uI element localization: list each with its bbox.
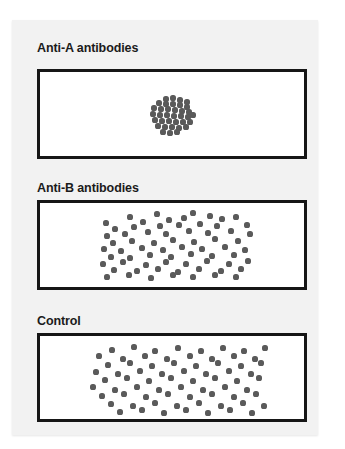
blood-cell-dot [193, 363, 198, 368]
panel-label-control: Control [37, 314, 81, 328]
blood-cell-dot [151, 105, 156, 110]
blood-cell-dot [93, 369, 98, 374]
blood-cell-dot [139, 245, 144, 250]
blood-cell-dot [109, 347, 114, 352]
blood-cell-dot [235, 238, 240, 243]
blood-cell-dot [171, 113, 176, 118]
blood-cell-dot [219, 216, 224, 221]
blood-cell-dot [160, 247, 165, 252]
blood-cell-dot [99, 393, 104, 398]
blood-cell-dot [163, 231, 168, 236]
blood-cell-dot [145, 229, 150, 234]
blood-cell-dot [143, 262, 148, 267]
blood-cell-dot [121, 391, 126, 396]
blood-cell-dot [164, 112, 169, 117]
blood-cell-dot [96, 353, 101, 358]
blood-cell-dot [120, 356, 125, 361]
blood-cell-dot [178, 384, 183, 389]
blood-cell-dot [164, 356, 169, 361]
blood-cell-dot [218, 268, 223, 273]
blood-cell-dot [161, 410, 166, 415]
blood-typing-figure: Anti-A antibodies Anti-B antibodies Cont… [0, 0, 345, 449]
blood-cell-dot [181, 215, 186, 220]
blood-cell-dot [104, 233, 109, 238]
blood-cell-dot [188, 251, 193, 256]
blood-cell-dot [234, 378, 239, 383]
blood-cell-dot [105, 362, 110, 367]
blood-cell-dot [203, 371, 208, 376]
blood-cell-dot [256, 375, 261, 380]
blood-cell-dot [177, 102, 182, 107]
blood-cell-dot [245, 258, 250, 263]
blood-cell-dot [124, 375, 129, 380]
blood-cell-dot [140, 219, 145, 224]
blood-cell-dot [117, 409, 122, 414]
blood-cell-dot [174, 129, 179, 134]
blood-cell-dot [112, 387, 117, 392]
blood-cell-dot [244, 222, 249, 227]
blood-cell-dot [183, 261, 188, 266]
panel-label-anti-b: Anti-B antibodies [37, 181, 139, 195]
blood-cell-dot [147, 252, 152, 257]
blood-cell-dot [108, 254, 113, 259]
blood-cell-dot [160, 129, 165, 134]
blood-cell-dot [131, 344, 136, 349]
blood-cell-dot [220, 345, 225, 350]
blood-cell-dot [108, 401, 113, 406]
blood-cell-dot [238, 266, 243, 271]
blood-cell-dot [179, 244, 184, 249]
blood-cell-dot [90, 384, 95, 389]
blood-cell-dot [190, 112, 195, 117]
blood-cell-dot [233, 274, 238, 279]
blood-cell-dot [150, 111, 155, 116]
blood-cell-dot [248, 371, 253, 376]
blood-cell-dot [159, 371, 164, 376]
blood-cell-dot [101, 246, 106, 251]
blood-cell-dot [212, 375, 217, 380]
blood-cell-dot [209, 356, 214, 361]
blood-cell-dot [151, 240, 156, 245]
blood-cell-dot [238, 363, 243, 368]
blood-cell-dot [205, 230, 210, 235]
blood-cell-dot [181, 368, 186, 373]
blood-cell-dot [155, 266, 160, 271]
blood-cell-dot [226, 261, 231, 266]
blood-cell-dot [174, 403, 179, 408]
blood-cell-dot [190, 210, 195, 215]
blood-cell-dot [127, 360, 132, 365]
blood-cell-dot [240, 400, 245, 405]
panel-label-anti-a: Anti-A antibodies [37, 41, 138, 55]
sample-well-control [37, 333, 307, 422]
blood-cell-dot [252, 356, 257, 361]
blood-cell-dot [242, 247, 247, 252]
blood-cell-dot [152, 117, 157, 122]
blood-cell-dot [215, 360, 220, 365]
blood-cell-dot [183, 407, 188, 412]
blood-cell-dot [197, 221, 202, 226]
blood-cell-dot [186, 228, 191, 233]
blood-cell-dot [227, 407, 232, 412]
blood-cell-dot [134, 268, 139, 273]
blood-cell-dot [148, 275, 153, 280]
blood-cell-dot [122, 231, 127, 236]
blood-cell-dot [100, 261, 105, 266]
blood-cell-dot [198, 348, 203, 353]
blood-cell-dot [152, 400, 157, 405]
blood-cell-dot [170, 95, 175, 100]
blood-cell-dot [170, 237, 175, 242]
blood-cell-dot [166, 118, 171, 123]
blood-cell-dot [104, 274, 109, 279]
sample-well-anti-a [37, 69, 307, 159]
blood-cell-dot [111, 267, 116, 272]
blood-cell-dot [183, 124, 188, 129]
blood-cell-dot [127, 214, 132, 219]
blood-cell-dot [120, 259, 125, 264]
blood-cell-dot [175, 345, 180, 350]
blood-cell-dot [244, 387, 249, 392]
blood-cell-dot [226, 368, 231, 373]
blood-cell-dot [157, 223, 162, 228]
blood-cell-dot [190, 378, 195, 383]
blood-cell-dot [156, 387, 161, 392]
blood-cell-dot [247, 231, 252, 236]
blood-cell-dot [196, 400, 201, 405]
